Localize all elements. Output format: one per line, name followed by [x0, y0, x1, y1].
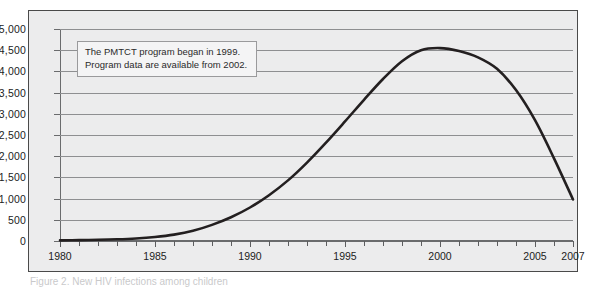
x-tick-1986 [174, 241, 175, 246]
y-axis-label: 1,000 [0, 193, 26, 205]
x-axis-label: 1985 [143, 250, 166, 262]
x-tick-1999 [421, 241, 422, 246]
x-tick-2005 [535, 241, 536, 247]
x-tick-1998 [402, 241, 403, 246]
y-axis-label: 0 [0, 235, 26, 247]
x-axis-label: 2005 [523, 250, 546, 262]
chart-figure: 05001,0001,5002,0002,5003,0003,5004,0004… [28, 10, 578, 272]
x-tick-1989 [231, 241, 232, 246]
y-axis-label: 3,500 [0, 87, 26, 99]
y-axis-label: 2,000 [0, 150, 26, 162]
y-axis-label: 2,500 [0, 129, 26, 141]
x-tick-1991 [269, 241, 270, 246]
y-axis-label: 500 [0, 214, 26, 226]
x-axis-label: 1995 [333, 250, 356, 262]
x-tick-2007 [573, 241, 574, 247]
x-tick-1994 [326, 241, 327, 246]
x-tick-2003 [497, 241, 498, 246]
x-tick-1987 [193, 241, 194, 246]
x-tick-1993 [307, 241, 308, 246]
annotation-line-2: Program data are available from 2002. [85, 59, 250, 72]
figure-caption: Figure 2. New HIV infections among child… [30, 276, 228, 287]
x-axis-label: 2000 [428, 250, 451, 262]
x-axis-label: 1990 [238, 250, 261, 262]
x-tick-1995 [345, 241, 346, 247]
x-tick-1981 [79, 241, 80, 246]
x-tick-2000 [440, 241, 441, 247]
x-tick-1980 [60, 241, 61, 247]
x-tick-2002 [478, 241, 479, 246]
x-axis-label: 1980 [48, 250, 71, 262]
x-tick-1984 [136, 241, 137, 246]
x-tick-2001 [459, 241, 460, 246]
y-axis-label: 4,000 [0, 65, 26, 77]
y-axis-label: 3,000 [0, 108, 26, 120]
x-tick-1988 [212, 241, 213, 246]
annotation-callout: The PMTCT program began in 1999. Program… [77, 41, 257, 77]
x-tick-1982 [98, 241, 99, 246]
x-tick-2004 [516, 241, 517, 246]
x-tick-1990 [250, 241, 251, 247]
x-tick-1996 [364, 241, 365, 246]
annotation-line-1: The PMTCT program began in 1999. [85, 46, 250, 59]
x-tick-1997 [383, 241, 384, 246]
x-axis-label: 2007 [561, 250, 584, 262]
x-tick-1992 [288, 241, 289, 246]
y-axis-label: 1,500 [0, 171, 26, 183]
x-tick-1983 [117, 241, 118, 246]
y-axis-label: 4,500 [0, 44, 26, 56]
x-tick-1985 [155, 241, 156, 247]
x-tick-2006 [554, 241, 555, 246]
y-axis-label: 5,000 [0, 23, 26, 35]
